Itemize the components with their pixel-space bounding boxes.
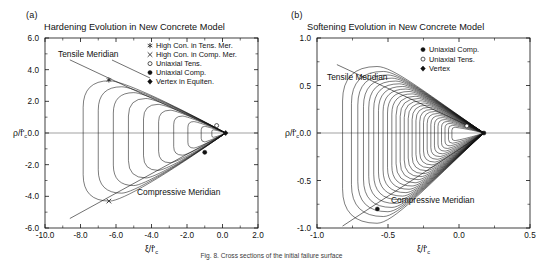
legend-item: Uniaxial Tens. <box>421 55 475 64</box>
annotation-compressive-meridian: Compressive Meridian <box>391 195 475 205</box>
annotation-compressive-meridian: Compressive Meridian <box>137 187 221 197</box>
marker-open-circle <box>465 124 469 128</box>
legend-label: Uniaxial Comp. <box>429 45 479 54</box>
marker-open-circle <box>421 57 425 61</box>
legend-item: High Con. in Tens. Mer. <box>148 41 233 50</box>
annotation-tensile-meridian: Tensile Meridian <box>58 49 119 59</box>
y-tick-label: -2.0 <box>25 161 40 170</box>
x-tick-label: 0.0 <box>217 231 229 240</box>
data-point-marker <box>203 150 207 154</box>
legend-item: Uniaxial Tens. <box>148 59 202 68</box>
legend-label: Uniaxial Tens. <box>429 55 475 64</box>
legend-label: Vertex in Equiten. <box>156 77 214 86</box>
marker-filled-circle <box>203 150 207 154</box>
y-tick-label: -0.5 <box>297 177 312 186</box>
data-point-marker <box>223 130 228 135</box>
data-point-marker <box>107 77 112 82</box>
panel-a: (a) Hardening Evolution in New Concrete … <box>0 0 271 267</box>
marker-diamond <box>421 66 426 71</box>
x-tick-label: -6.0 <box>109 231 124 240</box>
legend-label: High Con. in Tens. Mer. <box>156 41 233 50</box>
panel-b: (b) Softening Evolution in New Concrete … <box>271 0 542 267</box>
marker-filled-circle <box>482 131 486 135</box>
x-tick-label: 0.0 <box>453 231 465 240</box>
marker-diamond <box>223 130 228 135</box>
y-tick-label: -4.0 <box>25 192 40 201</box>
legend-label: Uniaxial Comp. <box>156 68 206 77</box>
data-point-marker <box>482 131 486 135</box>
panel-a-plot: -10.0-8.0-6.0-4.0-2.00.02.0-6.0-4.0-2.00… <box>0 0 271 267</box>
marker-asterisk <box>107 77 112 82</box>
x-tick-label: -1.0 <box>310 231 325 240</box>
figure-caption: Fig. 8. Cross sections of the initial fa… <box>0 252 543 267</box>
x-tick-label: -0.5 <box>381 231 396 240</box>
y-tick-label: 4.0 <box>28 66 40 75</box>
data-point-marker <box>465 124 469 128</box>
y-axis-title: ρ/f'c <box>13 128 27 139</box>
marker-diamond <box>148 79 153 84</box>
x-tick-label: 0.5 <box>524 231 536 240</box>
x-tick-label: -2.0 <box>180 231 195 240</box>
y-tick-label: -1.0 <box>297 224 312 233</box>
loading-surface-curve <box>98 87 225 193</box>
x-tick-label: 2.0 <box>252 231 264 240</box>
legend-item: Vertex in Equiten. <box>148 77 214 86</box>
marker-filled-circle <box>375 207 379 211</box>
marker-asterisk <box>148 43 153 48</box>
y-tick-label: 0.0 <box>300 129 312 138</box>
legend-item: Uniaxial Comp. <box>148 68 206 77</box>
annotation-tensile-meridian: Tensile Meridian <box>327 72 388 82</box>
annotation-leader <box>112 60 150 78</box>
marker-filled-circle <box>148 71 152 75</box>
y-tick-label: 1.0 <box>300 34 312 43</box>
softening-surface-curve <box>452 127 484 140</box>
legend-label: Vertex <box>429 64 450 73</box>
legend-label: High Con. in Comp. Mer. <box>156 50 237 59</box>
marker-open-circle <box>148 62 152 66</box>
panel-b-plot: -1.0-0.50.00.5-1.0-0.50.00.51.0ξ/f'cρ/f'… <box>271 0 543 267</box>
legend-item: Vertex <box>421 64 451 73</box>
y-tick-label: 0.5 <box>300 82 312 91</box>
meridian-line <box>70 133 226 219</box>
legend-item: Uniaxial Comp. <box>421 45 479 54</box>
y-tick-label: -6.0 <box>25 224 40 233</box>
data-point-marker <box>375 207 379 211</box>
y-tick-label: 0.0 <box>28 129 40 138</box>
figure-root: (a) Hardening Evolution in New Concrete … <box>0 0 543 267</box>
y-axis-title: ρ/f'c <box>285 128 299 139</box>
marker-open-circle <box>215 124 219 128</box>
marker-cross <box>148 52 153 57</box>
x-tick-label: -4.0 <box>144 231 159 240</box>
legend-label: Uniaxial Tens. <box>156 59 202 68</box>
y-tick-label: 2.0 <box>28 97 40 106</box>
marker-filled-circle <box>421 48 425 52</box>
data-point-marker <box>215 124 219 128</box>
legend-item: High Con. in Comp. Mer. <box>148 50 237 59</box>
x-tick-label: -8.0 <box>73 231 88 240</box>
y-tick-label: 6.0 <box>28 34 40 43</box>
